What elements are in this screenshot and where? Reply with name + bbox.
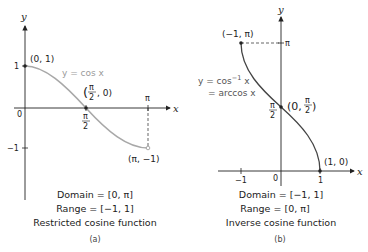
- panel-b-inverse-cosine: y x −1 0 1 π π 2 (−1, π) y = cos−1 x = a…: [198, 4, 363, 244]
- panel-b-sub-label: (b): [274, 235, 285, 244]
- panel-a-equation: y = cos x: [62, 68, 105, 78]
- svg-text:): ): [312, 100, 316, 113]
- panel-b-tick-label-pi: π: [285, 39, 290, 48]
- svg-text:π: π: [83, 112, 88, 121]
- svg-text:π: π: [305, 96, 310, 105]
- panel-b-tick-label-1: 1: [318, 176, 323, 185]
- point-pi2-0: [84, 106, 88, 110]
- svg-text:π: π: [270, 101, 275, 110]
- panel-a-point-label-start: (0, 1): [30, 54, 54, 64]
- svg-text:(0,: (0,: [287, 100, 302, 113]
- panel-a-restricted-cosine: y x 1 −1 0 π 2 π (0, 1) y = cos x ( π: [7, 11, 179, 244]
- panel-b-point-label-start: (−1, π): [222, 29, 253, 39]
- panel-b-y-axis-label: y: [277, 4, 284, 15]
- point-1-0: [318, 169, 322, 173]
- panel-a-tick-label-pi-over-2: π 2: [82, 112, 90, 131]
- panel-a-domain: Domain = [0, π]: [57, 189, 133, 200]
- svg-text:(: (: [83, 85, 88, 100]
- panel-a-tick-label-pi: π: [145, 94, 150, 103]
- panel-b-tick-label-pi-over-2: π 2: [269, 101, 277, 120]
- panel-b-tick-label-neg1: −1: [235, 176, 247, 185]
- panel-a-x-axis-label: x: [173, 103, 179, 114]
- panel-b-origin-label: 0: [273, 174, 278, 183]
- panel-b-point-label-mid: (0, π 2 ): [287, 96, 316, 115]
- panel-a-tick-label-neg1: −1: [7, 144, 19, 153]
- panel-b-domain: Domain = [−1, 1]: [239, 189, 323, 200]
- svg-text:2: 2: [89, 93, 94, 102]
- point-0-1: [23, 64, 27, 68]
- svg-text:π: π: [89, 83, 94, 92]
- panel-a-origin-label: 0: [17, 110, 22, 119]
- panel-a-range: Range = [−1, 1]: [56, 203, 134, 214]
- panel-a-sub-label: (a): [89, 235, 100, 244]
- panel-a-caption: Restricted cosine function: [33, 217, 156, 228]
- panel-a-point-label-mid: ( π 2 , 0): [83, 83, 112, 102]
- point-pi-neg1: [146, 146, 150, 150]
- panel-b-point-label-end: (1, 0): [324, 157, 348, 167]
- figure: y x 1 −1 0 π 2 π (0, 1) y = cos x ( π: [0, 0, 368, 252]
- svg-text:y = cos−1 x: y = cos−1 x: [198, 74, 250, 86]
- panel-a-y-axis-label: y: [20, 11, 27, 22]
- svg-text:2: 2: [83, 122, 88, 131]
- point-neg1-pi: [239, 41, 243, 45]
- panel-a-tick-label-1: 1: [14, 62, 19, 71]
- point-0-pi2: [279, 105, 283, 109]
- panel-a-point-label-end: (π, −1): [128, 154, 159, 164]
- panel-b-equation: y = cos−1 x = arccos x: [198, 74, 256, 98]
- svg-text:2: 2: [305, 106, 310, 115]
- panel-b-range: Range = [0, π]: [240, 203, 309, 214]
- panel-b-x-axis-label: x: [357, 166, 363, 177]
- panel-b-caption: Inverse cosine function: [226, 217, 336, 228]
- svg-text:= arccos x: = arccos x: [208, 88, 256, 98]
- svg-text:, 0): , 0): [97, 88, 112, 98]
- svg-text:2: 2: [270, 111, 275, 120]
